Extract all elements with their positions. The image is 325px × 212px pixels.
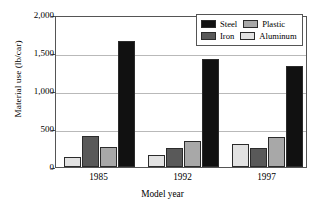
legend-swatch-plastic xyxy=(243,20,258,28)
bar-chart: Material use (lb/car) 05001,0001,5002,00… xyxy=(0,0,325,212)
legend-swatch-steel xyxy=(201,20,216,28)
legend-label: Steel xyxy=(220,20,237,29)
x-tick-label: 1992 xyxy=(148,172,218,182)
bar-iron-1992 xyxy=(166,148,183,167)
bar-aluminum-1997 xyxy=(232,144,249,167)
bar-iron-1997 xyxy=(250,148,267,167)
legend-label: Plastic xyxy=(262,20,285,29)
legend-entry-aluminum: Aluminum xyxy=(240,32,296,41)
bar-plastic-1997 xyxy=(268,137,285,167)
y-tick-label: 1,500 xyxy=(8,49,54,58)
x-tick-label: 1985 xyxy=(64,172,134,182)
legend-entry-plastic: Plastic xyxy=(243,20,285,29)
bar-steel-1985 xyxy=(118,41,135,167)
bar-aluminum-1985 xyxy=(64,157,81,167)
y-tick-label: 0 xyxy=(8,163,54,172)
y-tick-label: 500 xyxy=(8,125,54,134)
bar-plastic-1992 xyxy=(184,141,201,167)
y-tick-label: 2,000 xyxy=(8,11,54,20)
x-tick-label: 1997 xyxy=(232,172,302,182)
bar-steel-1992 xyxy=(202,59,219,167)
x-axis-title: Model year xyxy=(0,189,325,199)
legend-row: IronAluminum xyxy=(201,30,297,42)
legend-row: SteelPlastic xyxy=(201,18,297,30)
bar-group xyxy=(64,17,148,167)
legend-label: Aluminum xyxy=(259,32,296,41)
legend-entry-steel: Steel xyxy=(201,20,237,29)
chart-legend: SteelPlasticIronAluminum xyxy=(196,14,303,46)
bar-plastic-1985 xyxy=(100,147,117,167)
y-tick-label: 1,000 xyxy=(8,87,54,96)
legend-swatch-aluminum xyxy=(240,32,255,40)
bar-aluminum-1992 xyxy=(148,155,165,167)
bar-steel-1997 xyxy=(286,66,303,167)
legend-label: Iron xyxy=(220,32,234,41)
bar-iron-1985 xyxy=(82,136,99,167)
legend-swatch-iron xyxy=(201,32,216,40)
legend-entry-iron: Iron xyxy=(201,32,234,41)
